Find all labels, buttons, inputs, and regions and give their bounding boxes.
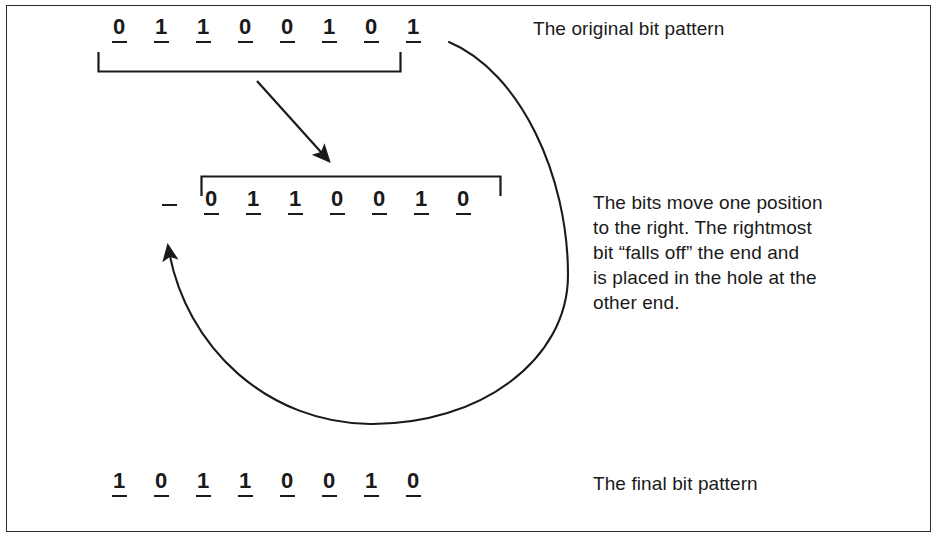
bit-cell: 1	[182, 16, 224, 43]
bit-cell: 0	[442, 188, 484, 215]
final-bit-pattern-row: 1 0 1 1 0 0 1 0	[98, 470, 434, 497]
bit-cell: 1	[350, 470, 392, 497]
bit-cell: 0	[392, 470, 434, 497]
original-bit-pattern-row: 0 1 1 0 0 1 0 1	[98, 16, 434, 43]
bit-cell: 1	[308, 16, 350, 43]
bit-cell: 1	[140, 16, 182, 43]
bit-cell: 0	[266, 16, 308, 43]
caption-original-bit-pattern: The original bit pattern	[533, 18, 724, 40]
bit-value: 0	[322, 470, 337, 497]
bit-cell: 0	[98, 16, 140, 43]
bit-cell: 1	[98, 470, 140, 497]
bit-rotation-figure: 0 1 1 0 0 1 0 1 0 1 1 0 0 1 0 1 0 1 1 0 …	[0, 0, 941, 542]
bit-value: 0	[280, 470, 295, 497]
bit-cell: 0	[266, 470, 308, 497]
bit-value: 0	[112, 16, 127, 43]
bit-cell: 1	[232, 188, 274, 215]
bit-value: 1	[406, 16, 421, 43]
bit-cell: 1	[224, 470, 266, 497]
bit-value: 1	[288, 188, 303, 215]
bit-value: 0	[238, 16, 253, 43]
bit-value: 0	[456, 188, 471, 215]
bit-value: 0	[280, 16, 295, 43]
bit-value: 0	[154, 470, 169, 497]
bit-cell: 1	[400, 188, 442, 215]
bit-value: 0	[330, 188, 345, 215]
bit-value: 1	[238, 470, 253, 497]
bit-cell: 0	[308, 470, 350, 497]
bit-value: 1	[112, 470, 127, 497]
bit-value: 1	[196, 16, 211, 43]
bit-value	[162, 201, 177, 206]
bit-value: 1	[246, 188, 261, 215]
bit-value: 1	[322, 16, 337, 43]
empty-hole-cell	[148, 188, 190, 210]
bit-value: 1	[364, 470, 379, 497]
bit-value: 1	[196, 470, 211, 497]
caption-shift-explanation: The bits move one position to the right.…	[593, 190, 893, 315]
bit-cell: 0	[140, 470, 182, 497]
bit-value: 1	[154, 16, 169, 43]
caption-final-bit-pattern: The final bit pattern	[593, 473, 758, 495]
bit-value: 0	[372, 188, 387, 215]
bit-value: 0	[364, 16, 379, 43]
shifted-bit-pattern-row: 0 1 1 0 0 1 0	[148, 188, 484, 215]
bit-cell: 0	[350, 16, 392, 43]
bit-cell: 1	[274, 188, 316, 215]
bit-cell: 0	[358, 188, 400, 215]
bit-cell: 0	[190, 188, 232, 215]
bit-cell: 0	[224, 16, 266, 43]
bit-cell: 1	[182, 470, 224, 497]
highlighted-bit-cell: 1	[392, 16, 434, 43]
bit-value: 1	[414, 188, 429, 215]
bit-value: 0	[406, 470, 421, 497]
bit-cell: 0	[316, 188, 358, 215]
bit-value: 0	[204, 188, 219, 215]
